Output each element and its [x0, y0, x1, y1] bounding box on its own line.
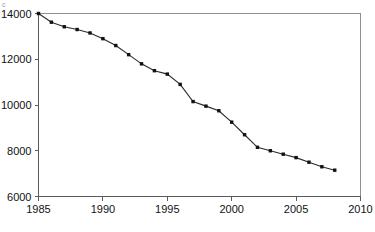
x-tick-label: 2005 — [284, 203, 308, 215]
data-point-marker — [37, 12, 40, 15]
chart-container: c 60008000100001200014000 19851990199520… — [0, 0, 375, 232]
data-point-marker — [217, 109, 220, 112]
data-point-marker — [166, 72, 169, 75]
data-point-marker — [243, 133, 246, 136]
data-point-marker — [282, 152, 285, 155]
y-tick-label: 12000 — [1, 53, 32, 65]
x-tick-label: 1985 — [26, 203, 50, 215]
y-tick-label: 14000 — [1, 8, 32, 20]
data-point-markers — [37, 12, 337, 172]
data-point-marker — [63, 25, 66, 28]
data-point-marker — [204, 104, 207, 107]
data-point-marker — [256, 146, 259, 149]
x-axis-ticks — [39, 197, 361, 201]
data-point-marker — [333, 168, 336, 171]
y-tick-label: 8000 — [7, 145, 31, 157]
data-point-marker — [75, 28, 78, 31]
y-tick-label: 10000 — [1, 99, 32, 111]
y-tick-label: 6000 — [7, 191, 31, 203]
x-axis-labels: 198519901995200020052010 — [26, 203, 372, 215]
data-point-marker — [307, 160, 310, 163]
data-point-marker — [320, 165, 323, 168]
data-point-marker — [191, 100, 194, 103]
series-line-series-1 — [39, 14, 335, 171]
data-point-marker — [101, 37, 104, 40]
x-tick-label: 2010 — [348, 203, 372, 215]
data-point-marker — [230, 120, 233, 123]
data-series — [39, 14, 335, 171]
data-point-marker — [140, 62, 143, 65]
data-point-marker — [114, 44, 117, 47]
data-point-marker — [269, 149, 272, 152]
data-point-marker — [88, 31, 91, 34]
x-tick-label: 1990 — [91, 203, 115, 215]
data-point-marker — [294, 156, 297, 159]
y-axis-labels: 60008000100001200014000 — [1, 8, 32, 203]
data-point-marker — [178, 83, 181, 86]
data-point-marker — [153, 69, 156, 72]
x-tick-label: 1995 — [155, 203, 179, 215]
line-chart: c 60008000100001200014000 19851990199520… — [0, 0, 375, 232]
data-point-marker — [50, 20, 53, 23]
plot-frame — [39, 14, 361, 197]
x-tick-label: 2000 — [219, 203, 243, 215]
y-axis-ticks — [35, 14, 39, 197]
data-point-marker — [127, 53, 130, 56]
